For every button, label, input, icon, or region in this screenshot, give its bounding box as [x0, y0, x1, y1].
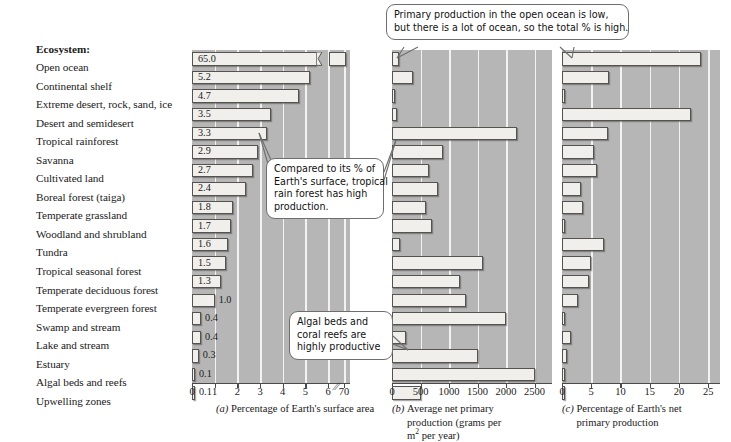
callout-line: Earth's surface, tropical	[274, 176, 376, 189]
callout-line: production.	[274, 201, 376, 214]
callout-line: highly productive	[297, 341, 385, 354]
open-ocean-callout: Primary production in the open ocean is …	[386, 4, 629, 40]
callout-line: Algal beds and	[297, 316, 385, 329]
callout-line: Compared to its % of	[274, 163, 376, 176]
callout-line: but there is a lot of ocean, so the tota…	[394, 22, 621, 35]
callout-line: Primary production in the open ocean is …	[394, 9, 621, 22]
tropical-rainforest-callout: Compared to its % ofEarth's surface, tro…	[266, 158, 384, 219]
callout-line: rain forest has high	[274, 188, 376, 201]
callout-leader-lines	[0, 0, 731, 442]
algal-beds-callout: Algal beds andcoral reefs arehighly prod…	[289, 311, 393, 360]
callout-line: coral reefs are	[297, 329, 385, 342]
